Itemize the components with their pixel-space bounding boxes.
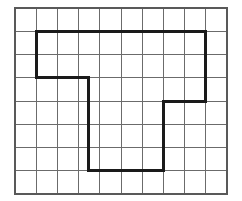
figure-canvas	[0, 0, 242, 201]
grid-figure	[0, 0, 242, 201]
